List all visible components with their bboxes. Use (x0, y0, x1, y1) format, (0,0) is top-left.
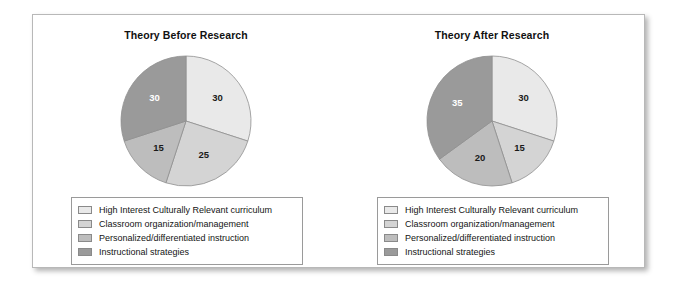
legend-item-label: Instructional strategies (99, 245, 189, 259)
legend-swatch-icon (78, 234, 92, 242)
figure-frame: Theory Before Research 30251530 High Int… (32, 14, 645, 268)
pie-svg-before: 30251530 (118, 53, 254, 189)
legend-swatch-icon (384, 234, 398, 242)
legend-item[interactable]: Instructional strategies (384, 245, 602, 259)
chart-title-before: Theory Before Research (33, 29, 339, 41)
legend-item-label: Classroom organization/management (405, 217, 555, 231)
legend-after: High Interest Culturally Relevant curric… (377, 197, 609, 265)
legend-item[interactable]: Classroom organization/management (384, 217, 602, 231)
legend-item-label: Classroom organization/management (99, 217, 249, 231)
pie-slice-label: 30 (212, 92, 223, 103)
legend-swatch-icon (78, 206, 92, 214)
pie-slice-label: 15 (153, 142, 164, 153)
chart-panel-after: Theory After Research 30152035 High Inte… (339, 15, 645, 267)
legend-item[interactable]: High Interest Culturally Relevant curric… (384, 203, 602, 217)
legend-item[interactable]: Personalized/differentiated instruction (384, 231, 602, 245)
legend-item[interactable]: High Interest Culturally Relevant curric… (78, 203, 296, 217)
pie-svg-after: 30152035 (424, 53, 560, 189)
pie-slice-label: 25 (198, 149, 209, 160)
pie-chart-after: 30152035 (424, 53, 560, 189)
legend-swatch-icon (78, 248, 92, 256)
pie-chart-before: 30251530 (118, 53, 254, 189)
legend-swatch-icon (384, 248, 398, 256)
chart-panel-before: Theory Before Research 30251530 High Int… (33, 15, 339, 267)
pie-slice-label: 35 (452, 97, 463, 108)
legend-item-label: Instructional strategies (405, 245, 495, 259)
chart-title-after: Theory After Research (339, 29, 645, 41)
pie-slice-label: 30 (149, 92, 160, 103)
legend-item[interactable]: Personalized/differentiated instruction (78, 231, 296, 245)
legend-item-label: High Interest Culturally Relevant curric… (99, 203, 272, 217)
legend-swatch-icon (78, 220, 92, 228)
pie-slice-label: 30 (518, 92, 529, 103)
legend-item-label: Personalized/differentiated instruction (405, 231, 555, 245)
legend-item[interactable]: Classroom organization/management (78, 217, 296, 231)
pie-slice-label: 20 (475, 152, 486, 163)
legend-item[interactable]: Instructional strategies (78, 245, 296, 259)
legend-before: High Interest Culturally Relevant curric… (71, 197, 303, 265)
legend-item-label: High Interest Culturally Relevant curric… (405, 203, 578, 217)
pie-slice-label: 15 (514, 142, 525, 153)
legend-swatch-icon (384, 206, 398, 214)
legend-swatch-icon (384, 220, 398, 228)
legend-item-label: Personalized/differentiated instruction (99, 231, 249, 245)
